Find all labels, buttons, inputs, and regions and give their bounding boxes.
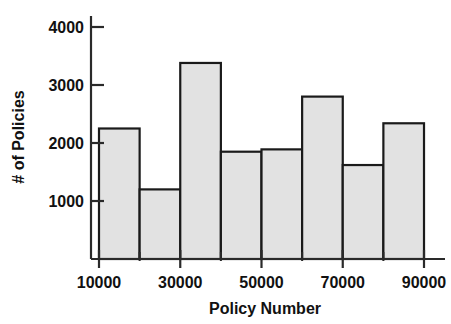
histogram-bar [99,129,140,260]
y-axis-tick-label: 3000 [48,77,84,94]
x-axis-title: Policy Number [209,300,321,317]
x-axis-tick-label: 50000 [239,274,284,291]
x-axis-tick-labels: 1000030000500007000090000 [77,274,447,291]
x-axis-tick-label: 30000 [158,274,203,291]
y-axis-tick-label: 2000 [48,135,84,152]
histogram-bar [383,123,424,259]
y-axis-title: # of Policies [10,90,27,183]
histogram-bar [221,152,262,259]
x-axis-tick-label: 90000 [402,274,447,291]
y-axis-tick-labels: 1000200030004000 [48,19,84,210]
histogram-chart: 1000200030004000 10000300005000070000900… [0,0,451,324]
y-axis-tick-label: 4000 [48,19,84,36]
chart-canvas: 1000200030004000 10000300005000070000900… [0,0,451,324]
histogram-bar [343,165,384,259]
y-axis-tick-label: 1000 [48,193,84,210]
histogram-bar [302,97,343,259]
x-axis-tick-label: 10000 [77,274,122,291]
x-axis-tick-label: 70000 [321,274,366,291]
histogram-bar [262,149,303,259]
histogram-bar [180,63,221,259]
histogram-bar [140,189,181,259]
bars-group [99,63,424,259]
